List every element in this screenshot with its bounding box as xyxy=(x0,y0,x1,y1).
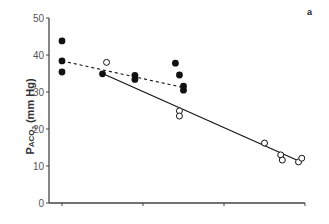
open-fit-line xyxy=(103,74,302,163)
scatter-chart: 01020304050 xyxy=(0,0,329,224)
filled-data-point xyxy=(99,70,106,77)
filled-data-point xyxy=(59,38,66,45)
y-axis-label: PACO2 (mm Hg) xyxy=(24,67,37,167)
open-data-point xyxy=(176,113,182,119)
filled-data-point xyxy=(180,87,187,94)
open-data-point xyxy=(279,157,285,163)
open-data-point xyxy=(262,140,268,146)
panel-label: a xyxy=(307,7,312,17)
filled-data-point xyxy=(59,58,66,65)
y-axis-label-unit: (mm Hg) xyxy=(24,78,36,126)
y-axis-label-p: P xyxy=(24,147,36,154)
y-tick-label: 0 xyxy=(38,198,44,209)
filled-data-point xyxy=(176,72,183,79)
filled-data-point xyxy=(132,76,139,83)
filled-fit-line xyxy=(62,61,184,88)
open-data-point xyxy=(299,155,305,161)
open-data-point xyxy=(104,59,110,65)
filled-data-point xyxy=(172,60,179,67)
data-points xyxy=(59,38,305,165)
y-axis-label-sub: ACO xyxy=(27,129,36,147)
y-tick-label: 40 xyxy=(33,50,45,61)
y-axis-label-sub2: 2 xyxy=(31,126,37,129)
filled-data-point xyxy=(59,69,66,76)
y-tick-label: 50 xyxy=(33,13,45,24)
axes: 01020304050 xyxy=(33,13,305,209)
